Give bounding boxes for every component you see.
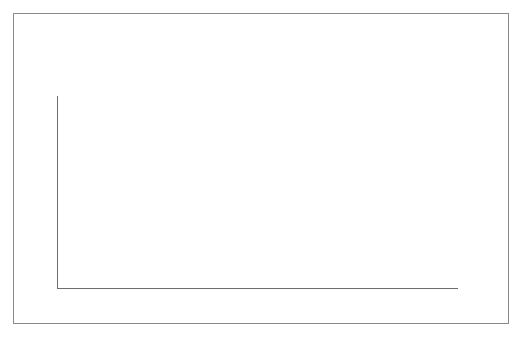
x-axis-ticks xyxy=(57,292,457,308)
chart-figure xyxy=(0,0,522,337)
chart-legend xyxy=(16,72,476,86)
plot-area xyxy=(57,96,458,289)
y-axis-ticks xyxy=(22,96,55,288)
bar-groups xyxy=(58,96,458,288)
